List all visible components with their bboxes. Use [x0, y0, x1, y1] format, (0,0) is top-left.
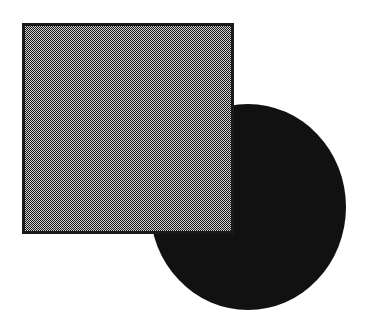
shapes-layer	[0, 0, 370, 335]
gray-square	[24, 25, 233, 233]
diagram-canvas	[0, 0, 370, 335]
